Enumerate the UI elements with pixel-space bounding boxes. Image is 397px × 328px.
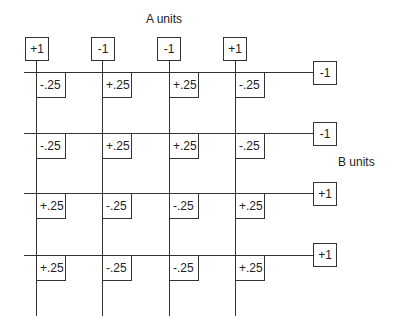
weight-2-1: -.25 (102, 194, 132, 219)
weight-2-2: -.25 (169, 194, 199, 219)
a-unit-0: +1 (25, 37, 49, 61)
a-unit-2: -1 (157, 37, 181, 61)
b-unit-1: -1 (313, 122, 337, 146)
weight-2-3: +.25 (235, 194, 265, 219)
weight-0-0: -.25 (36, 73, 66, 98)
b-unit-2: +1 (313, 182, 337, 206)
weight-1-2: +.25 (169, 134, 199, 159)
weight-2-0: +.25 (36, 194, 66, 219)
weight-3-3: +.25 (235, 256, 265, 281)
b-unit-3: +1 (313, 243, 337, 267)
b-unit-0: -1 (313, 61, 337, 85)
weight-0-2: +.25 (169, 73, 199, 98)
a-unit-3: +1 (223, 37, 247, 61)
weight-3-1: -.25 (102, 256, 132, 281)
weight-1-0: -.25 (36, 134, 66, 159)
weight-3-2: -.25 (169, 256, 199, 281)
weight-0-3: -.25 (235, 73, 265, 98)
weight-1-3: -.25 (235, 134, 265, 159)
weight-0-1: +.25 (102, 73, 132, 98)
b-units-label: B units (338, 155, 375, 169)
a-unit-1: -1 (91, 37, 115, 61)
weight-3-0: +.25 (36, 256, 66, 281)
weight-1-1: +.25 (102, 134, 132, 159)
a-units-label: A units (146, 12, 182, 26)
